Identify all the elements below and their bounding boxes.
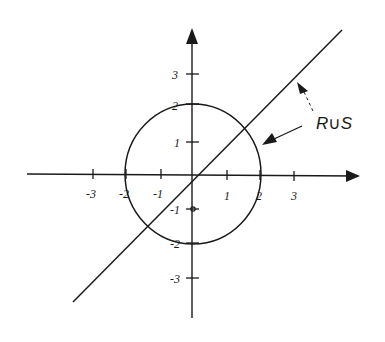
y-tick-label: -2: [170, 237, 180, 251]
x-axis-arrow-icon: [346, 170, 360, 182]
y-tick-labels: 3 2 1 -1 -2 -3: [170, 68, 180, 286]
y-axis-arrow-icon: [186, 28, 198, 44]
y-axis: [186, 28, 198, 318]
y-tick-label: 3: [171, 68, 178, 82]
line-set-r: [73, 30, 342, 302]
x-tick-label: 3: [290, 189, 297, 203]
y-tick-label: 1: [174, 136, 180, 150]
circle-set-s: [125, 104, 261, 244]
union-label: R∪S: [316, 114, 353, 133]
solid-arrow-icon: [262, 126, 302, 145]
y-tick-label: -3: [170, 272, 180, 286]
x-tick-label: 1: [224, 189, 230, 203]
dashed-arrow-icon: [297, 82, 313, 111]
y-tick-label: -1: [170, 203, 180, 217]
x-tick-label: -3: [86, 187, 96, 201]
coordinate-diagram: -3 -2 -1 1 2 3 3 2 1 -1 -2 -3 R∪S: [0, 0, 385, 342]
x-tick-label: -1: [153, 187, 163, 201]
